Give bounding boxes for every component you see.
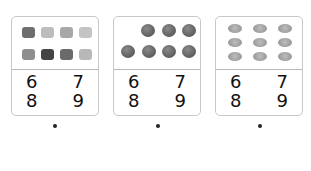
cookie-icon bbox=[253, 52, 267, 61]
apple-icon bbox=[141, 24, 155, 37]
can-icon bbox=[60, 27, 73, 38]
option-number[interactable]: 6 bbox=[26, 72, 37, 92]
apple-icon bbox=[162, 24, 176, 37]
can-icon bbox=[79, 49, 92, 60]
option-number[interactable]: 6 bbox=[230, 72, 241, 92]
cookie-icon bbox=[228, 24, 242, 33]
option-number[interactable]: 8 bbox=[26, 91, 37, 111]
option-number[interactable]: 7 bbox=[277, 72, 288, 92]
can-icon bbox=[79, 27, 92, 38]
counting-card-cookies: 6 7 8 9 bbox=[215, 16, 303, 116]
cookie-icon bbox=[278, 24, 292, 33]
cookie-icon bbox=[253, 38, 267, 47]
can-icon bbox=[41, 49, 54, 60]
apple-icon bbox=[182, 24, 196, 37]
option-number[interactable]: 6 bbox=[128, 72, 139, 92]
option-number[interactable]: 8 bbox=[128, 91, 139, 111]
picture-area bbox=[216, 17, 302, 70]
option-number[interactable]: 7 bbox=[73, 72, 84, 92]
option-number[interactable]: 9 bbox=[277, 91, 288, 111]
option-number[interactable]: 9 bbox=[73, 91, 84, 111]
apple-icon bbox=[121, 45, 135, 58]
option-number[interactable]: 8 bbox=[230, 91, 241, 111]
counting-card-cans: 6 7 8 9 bbox=[11, 16, 99, 116]
number-options: 6 7 8 9 bbox=[114, 70, 200, 116]
can-icon bbox=[41, 27, 54, 38]
answer-dot[interactable] bbox=[156, 124, 160, 128]
apple-icon bbox=[162, 45, 176, 58]
answer-dot[interactable] bbox=[53, 124, 57, 128]
can-icon bbox=[22, 49, 35, 60]
picture-area bbox=[12, 17, 98, 70]
option-number[interactable]: 7 bbox=[175, 72, 186, 92]
cookie-icon bbox=[278, 52, 292, 61]
counting-card-apples: 6 7 8 9 bbox=[113, 16, 201, 116]
answer-dot[interactable] bbox=[258, 124, 262, 128]
number-options: 6 7 8 9 bbox=[216, 70, 302, 116]
apple-icon bbox=[142, 45, 156, 58]
can-icon bbox=[60, 49, 73, 60]
number-options: 6 7 8 9 bbox=[12, 70, 98, 116]
apple-icon bbox=[182, 45, 196, 58]
picture-area bbox=[114, 17, 200, 70]
can-icon bbox=[22, 27, 35, 38]
cookie-icon bbox=[253, 24, 267, 33]
cookie-icon bbox=[228, 38, 242, 47]
cookie-icon bbox=[228, 52, 242, 61]
cookie-icon bbox=[278, 38, 292, 47]
option-number[interactable]: 9 bbox=[175, 91, 186, 111]
